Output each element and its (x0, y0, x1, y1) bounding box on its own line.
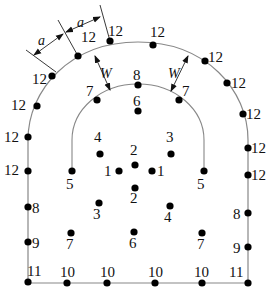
outer-point-label: 10 (60, 264, 75, 280)
outer-point-marker (33, 102, 40, 109)
outer-point-marker (24, 278, 31, 285)
outer-point-label: 12 (150, 24, 165, 40)
outer-point-marker (103, 279, 110, 286)
arch-point-label: 5 (66, 176, 74, 192)
outer-point-marker (48, 72, 55, 79)
inner-point-label: 3 (93, 206, 101, 222)
outer-point-label: 11 (229, 264, 243, 280)
outer-point-label: 12 (251, 140, 266, 156)
inner-point-label: 3 (166, 129, 174, 145)
outer-point-marker (198, 279, 205, 286)
inner-point-marker (167, 150, 174, 157)
dimension-a-label-1: a (38, 33, 45, 48)
inner-point-marker (96, 150, 103, 157)
outer-point-marker (74, 52, 81, 59)
outer-point-marker (223, 79, 230, 86)
outer-point-label: 12 (4, 162, 19, 178)
outer-point-label: 12 (246, 106, 261, 122)
outer-point-label: 9 (32, 235, 40, 251)
outer-point-marker (24, 238, 31, 245)
outer-point-label: 12 (208, 49, 223, 65)
arch-point-marker (200, 167, 207, 174)
outer-point-label: 10 (148, 264, 163, 280)
arch-point-label: 7 (182, 83, 190, 99)
outer-point-marker (24, 203, 31, 210)
outer-point-label: 8 (32, 200, 40, 216)
outer-point-marker (244, 279, 251, 286)
outer-point-label: 12 (11, 97, 26, 113)
outer-point-label: 11 (27, 263, 41, 279)
inner-point-label: 7 (197, 236, 205, 252)
outer-point-label: 9 (233, 240, 241, 256)
inner-point-marker (148, 167, 155, 174)
dimension-w-label-left: W (100, 66, 113, 81)
outer-point-marker (63, 279, 70, 286)
outer-point-marker (24, 133, 31, 140)
inner-point-label: 4 (94, 129, 102, 145)
inner-point-label: 6 (133, 93, 141, 109)
arch-point-label: 7 (86, 83, 94, 99)
inner-point-label: 2 (130, 142, 138, 158)
outer-point-label: 10 (100, 264, 115, 280)
outer-point-label: 8 (233, 206, 241, 222)
arch-point-marker (93, 96, 100, 103)
inner-point-label: 4 (164, 209, 172, 225)
dimension-a-label-2: a (77, 15, 84, 30)
inner-point-marker (131, 161, 138, 168)
outer-point-label: 12 (251, 167, 266, 183)
outer-point-label: 12 (4, 129, 19, 145)
outer-point-marker (244, 209, 251, 216)
outer-point-marker (24, 167, 31, 174)
tunnel-point-layout-diagram: a a W W 12121212121212121212121288991111… (0, 0, 272, 297)
outer-point-label: 12 (108, 23, 123, 39)
arch-point-label: 8 (133, 67, 141, 83)
inner-point-label: 7 (66, 236, 74, 252)
outer-point-label: 12 (231, 75, 246, 91)
inner-point-label: 6 (129, 235, 137, 251)
inner-point-label: 1 (157, 163, 165, 179)
inner-point-marker (115, 167, 122, 174)
arch-point-marker (68, 167, 75, 174)
inner-point-label: 1 (104, 163, 112, 179)
outer-point-label: 12 (81, 29, 96, 45)
arch-point-label: 5 (197, 176, 205, 192)
inner-point-label: 2 (130, 190, 138, 206)
outer-point-label: 10 (194, 264, 209, 280)
outer-point-marker (151, 279, 158, 286)
outer-point-marker (244, 243, 251, 250)
outer-point-marker (149, 41, 156, 48)
outer-point-label: 12 (32, 71, 47, 87)
dimension-w-label-right: W (168, 66, 181, 81)
